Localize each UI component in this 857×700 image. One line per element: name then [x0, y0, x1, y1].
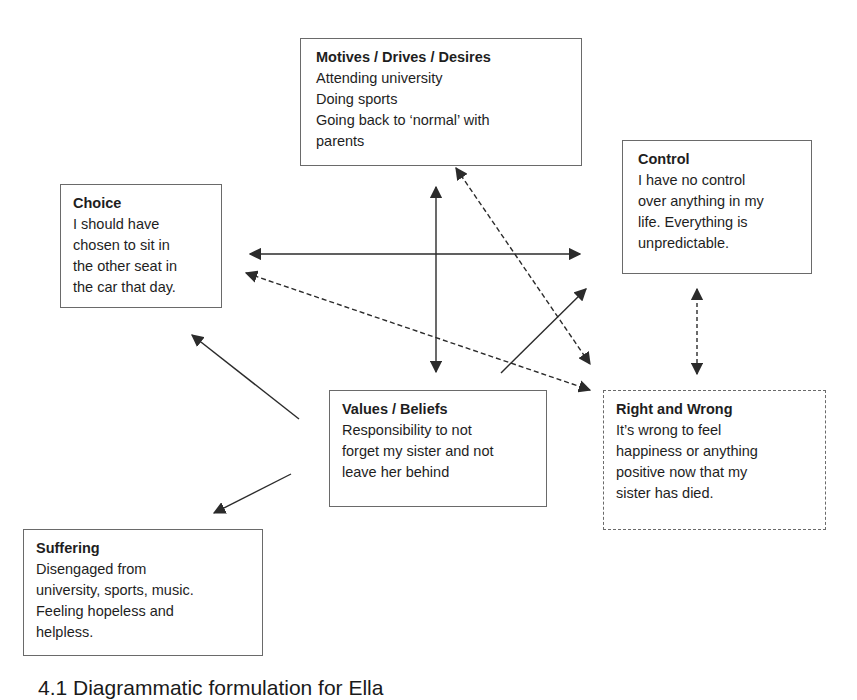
values-box: Values / Beliefs Responsibility to not f… — [329, 390, 547, 507]
motives-line: parents — [316, 131, 571, 152]
suffering-line: university, sports, music. — [36, 580, 252, 601]
motives-line: Doing sports — [316, 89, 571, 110]
motives-line: Attending university — [316, 68, 571, 89]
choice-box: Choice I should have chosen to sit in th… — [60, 184, 222, 308]
right-wrong-line: positive now that my — [616, 462, 815, 483]
motives-line: Going back to ‘normal’ with — [316, 110, 571, 131]
suffering-line: Disengaged from — [36, 559, 252, 580]
arrow-values-choice — [192, 335, 299, 419]
choice-line: the car that day. — [73, 277, 211, 298]
values-title: Values / Beliefs — [342, 399, 536, 420]
control-line: I have no control — [638, 170, 801, 191]
motives-title: Motives / Drives / Desires — [316, 47, 571, 68]
right-wrong-line: sister has died. — [616, 483, 815, 504]
figure-caption: 4.1 Diagrammatic formulation for Ella — [38, 676, 383, 700]
right-wrong-line: happiness or anything — [616, 441, 815, 462]
suffering-line: helpless. — [36, 622, 252, 643]
choice-line: chosen to sit in — [73, 235, 211, 256]
control-line: unpredictable. — [638, 233, 801, 254]
control-line: life. Everything is — [638, 212, 801, 233]
suffering-box: Suffering Disengaged from university, sp… — [23, 529, 263, 656]
suffering-line: Feeling hopeless and — [36, 601, 252, 622]
right-wrong-box: Right and Wrong It’s wrong to feel happi… — [603, 390, 826, 530]
values-line: forget my sister and not — [342, 441, 536, 462]
arrow-values-suffering — [214, 474, 291, 513]
control-line: over anything in my — [638, 191, 801, 212]
motives-box: Motives / Drives / Desires Attending uni… — [300, 38, 582, 166]
values-line: Responsibility to not — [342, 420, 536, 441]
choice-line: the other seat in — [73, 256, 211, 277]
control-title: Control — [638, 149, 801, 170]
right-wrong-title: Right and Wrong — [616, 399, 815, 420]
arrow-motives-rightwrong — [456, 168, 590, 364]
right-wrong-line: It’s wrong to feel — [616, 420, 815, 441]
choice-line: I should have — [73, 214, 211, 235]
arrow-values-control — [501, 289, 586, 373]
values-line: leave her behind — [342, 462, 536, 483]
choice-title: Choice — [73, 193, 211, 214]
arrow-choice-rightwrong — [246, 273, 590, 390]
suffering-title: Suffering — [36, 538, 252, 559]
control-box: Control I have no control over anything … — [622, 140, 812, 274]
